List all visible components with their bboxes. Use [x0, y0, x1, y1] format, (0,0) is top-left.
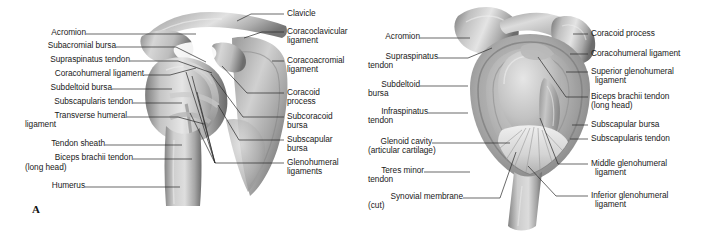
label-biceps-tendon-b-line2: (long head)	[591, 101, 632, 111]
label-subdeltoid-bursa-b-line2: bursa	[368, 89, 389, 99]
label-transverse-humeral-ligament-a-line2: ligament	[25, 120, 145, 130]
label-subscapular-bursa-b: Subscapular bursa	[591, 120, 659, 130]
label-inferior-glenohumeral-ligament-b-line2: ligament	[595, 200, 626, 210]
label-subdeltoid-bursa-a: Subdeltoid bursa	[0, 83, 112, 93]
label-superior-glenohumeral-ligament-b-line2: ligament	[595, 76, 626, 86]
label-biceps-tendon-a: Biceps brachii tendon	[0, 153, 133, 163]
label-infraspinatus-tendon-b-line2: tendon	[368, 116, 393, 126]
label-coracohumeral-ligament-a: Coracohumeral ligament	[0, 69, 144, 79]
leader-synovial-membrane-b2	[500, 152, 516, 198]
anatomy-figure-shoulder-joint: Acromion Subacromial bursa Supraspinatus…	[0, 0, 728, 238]
leader-subacromial-bursa-a2	[176, 47, 206, 62]
leader-glenohumeral-fan-3	[197, 92, 215, 163]
leader-biceps-tendon-b2	[538, 57, 566, 97]
label-coracoid-process-a-line2: process	[287, 97, 316, 107]
leader-glenohumeral-fan-1	[186, 72, 215, 163]
label-humerus-a: Humerus	[0, 181, 85, 191]
label-coracoid-process-b: Coracoid process	[591, 29, 655, 39]
leader-subcoracoid-bursa-a2	[211, 74, 243, 117]
label-coracoacromial-ligament-a-line2: ligament	[287, 65, 318, 75]
label-teres-minor-tendon-b-line2: tendon	[368, 175, 393, 185]
label-subscapularis-tendon-b: Subscapularis tendon	[591, 134, 670, 144]
leader-subscapular-bursa-a2	[218, 105, 239, 140]
leader-transverse-humeral-ligament-a2	[178, 117, 204, 124]
leader-supraspinatus-tendon-b2	[468, 48, 492, 58]
label-acromion-a: Acromion	[0, 28, 86, 38]
label-coracoclavicular-ligament-a-line2: ligament	[287, 36, 318, 46]
leader-glenohumeral-fan-4	[190, 113, 215, 163]
panel-b-illustration	[448, 0, 613, 235]
panel-letter-a: A	[32, 203, 40, 215]
leader-inferior-glenohumeral-ligament-b2	[528, 166, 556, 196]
leader-coracohumeral-ligament-a2	[170, 68, 196, 75]
label-synovial-membrane-b-line2: (cut)	[368, 201, 384, 211]
label-middle-glenohumeral-ligament-b-line2: ligament	[595, 168, 626, 178]
leader-supraspinatus-tendon-a2	[178, 61, 212, 73]
label-subscapular-bursa-a-line2: bursa	[287, 144, 308, 154]
label-supraspinatus-tendon-b-line2: tendon	[368, 61, 393, 71]
leader-middle-glenohumeral-ligament-b2	[540, 118, 558, 164]
label-subscapularis-tendon-a: Subscapularis tendon	[0, 97, 133, 107]
label-supraspinatus-tendon-a: Supraspinatus tendon	[0, 55, 130, 65]
leader-clavicle-a2	[237, 14, 251, 21]
label-acromion-b: Acromion	[364, 32, 420, 42]
label-coracohumeral-ligament-b: Coracohumeral ligament	[591, 49, 680, 59]
leader-coracoclavicular-ligament-a2	[244, 32, 262, 38]
label-subcoracoid-bursa-a-line2: bursa	[287, 121, 308, 131]
label-glenoid-cavity-b-line2: (articular cartilage)	[368, 146, 436, 156]
label-tendon-sheath-a: Tendon sheath	[0, 139, 105, 149]
label-clavicle-a: Clavicle	[287, 9, 316, 19]
label-subacromial-bursa-a: Subacromial bursa	[0, 41, 116, 51]
label-glenohumeral-ligaments-a-line2: ligaments	[287, 167, 322, 177]
leader-coracoid-process-a2	[222, 66, 247, 93]
leader-glenohumeral-fan-2	[192, 76, 215, 163]
label-biceps-tendon-a-line2: (long head)	[25, 163, 145, 173]
panel-a-illustration	[140, 0, 290, 210]
